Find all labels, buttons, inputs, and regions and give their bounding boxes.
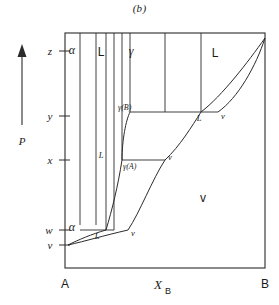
xaxis-label-sub: B [165,286,171,296]
region-label-alpha-bottom: α [69,220,76,234]
marker-vapour-at-w: v [131,228,135,238]
marker-liquid-at-x: L [98,150,104,160]
xaxis-label-main: X [153,277,163,292]
marker-vapour-at-x: v [168,152,172,162]
phase-diagram-plot: z y x w v P A B X B α L γ L v α γ(B) γ(A… [0,0,279,305]
tick-label-y: y [47,110,53,122]
pressure-axis-label: P [18,135,26,147]
phase-diagram-figure: (b) [0,0,279,305]
marker-liquid-at-w: L [94,231,100,241]
marker-gamma-B: γ(B) [118,103,132,112]
region-label-vapour-main: v [200,191,206,205]
marker-liquid-at-y: L [196,113,202,123]
region-label-liquid-right: L [212,46,219,60]
curve-vapourus-right-lens [218,38,265,112]
corner-label-B: B [261,277,269,291]
marker-vapour-at-y: v [221,111,225,121]
curve-gamma-upper [122,112,130,160]
tick-label-w: w [45,224,53,236]
region-label-alpha-top: α [69,43,76,57]
tick-label-z: z [47,45,53,57]
region-label-gamma-top: γ [129,44,134,58]
region-label-liquid-left: L [98,45,105,59]
tick-label-x: x [47,154,53,166]
corner-label-A: A [61,277,69,291]
tick-label-v: v [48,239,53,251]
up-arrow-icon [18,44,27,57]
curve-liquidus-right-lens [201,38,265,112]
marker-gamma-A: γ(A) [123,162,137,171]
